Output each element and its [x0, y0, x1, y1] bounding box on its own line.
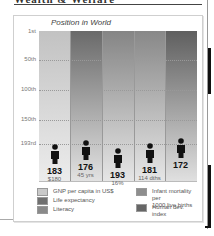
legend-swatch: [136, 188, 147, 196]
panel-title: Position in World: [51, 18, 111, 27]
rank-infant-mortality: 181: [134, 165, 165, 175]
person-icon: [80, 140, 92, 160]
gridline-193rd: [39, 144, 197, 145]
y-label-100th: 100th: [14, 86, 36, 92]
rank-life-expectancy: 176: [70, 162, 101, 172]
rank-literacy: 193: [102, 170, 133, 180]
y-label-193rd: 193rd: [14, 140, 36, 146]
legend-item-literacy: Literacy: [37, 206, 74, 214]
bar-human-dev: [165, 31, 197, 181]
legend-item-life-expectancy: Life expectancy: [37, 197, 95, 205]
y-label-150th: 150th: [14, 116, 36, 122]
chart-panel: Position in World 1st 50th 100th 150th 1…: [13, 15, 203, 222]
legend-label: Literacy: [53, 206, 74, 213]
stat-gnp: $180: [39, 176, 70, 182]
legend-swatch: [37, 188, 48, 196]
stat-literacy: 16%: [102, 180, 133, 186]
person-icon: [112, 148, 124, 168]
y-label-50th: 50th: [14, 56, 36, 62]
bottom-rule: [0, 219, 14, 220]
right-edge-block-2: [208, 165, 211, 228]
legend-label: GNP per capita in US$: [53, 188, 114, 195]
legend-item-human-dev: Human dev. index: [136, 204, 199, 218]
legend-swatch: [37, 206, 48, 214]
person-icon: [175, 138, 187, 158]
top-rule: [14, 4, 202, 5]
legend-swatch: [136, 204, 147, 212]
rank-gnp: 183: [39, 166, 70, 176]
gridline-150th: [39, 120, 197, 121]
legend-label: Human dev. index: [152, 204, 199, 218]
stat-infant-mortality: 114 dths: [134, 175, 165, 181]
rank-human-dev: 172: [165, 160, 196, 170]
y-label-1st: 1st: [14, 28, 36, 34]
legend-swatch: [37, 197, 48, 205]
right-edge-block-1: [208, 48, 211, 94]
gridline-50th: [39, 60, 197, 61]
legend-item-gnp: GNP per capita in US$: [37, 188, 114, 196]
person-icon: [49, 144, 61, 164]
stat-life-expectancy: 45 yrs: [70, 172, 101, 178]
gridline-100th: [39, 90, 197, 91]
right-edge-foot: [205, 226, 211, 228]
legend-label: Life expectancy: [53, 197, 95, 204]
person-icon: [144, 143, 156, 163]
legend: GNP per capita in US$ Life expectancy Li…: [29, 187, 199, 217]
legend-label-line1: Infant mortality per: [152, 188, 191, 201]
